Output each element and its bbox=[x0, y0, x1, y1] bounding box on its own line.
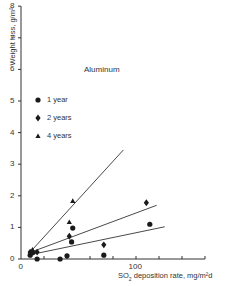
y-tick-label: 8 bbox=[10, 1, 14, 10]
triangle-marker bbox=[67, 219, 72, 224]
chart-canvas bbox=[0, 0, 230, 286]
legend-label: 2 years bbox=[47, 113, 72, 122]
x-tick-label: 0 bbox=[19, 262, 23, 271]
circle-marker bbox=[64, 253, 69, 258]
circle-marker bbox=[35, 256, 40, 261]
triangle-icon bbox=[34, 132, 42, 140]
x-label-post: deposition rate, mg/m²d bbox=[132, 271, 213, 280]
y-tick-label: 3 bbox=[10, 159, 14, 168]
legend-item: 1 year bbox=[34, 95, 68, 104]
y-tick-label: 6 bbox=[10, 64, 14, 73]
fit-line bbox=[28, 227, 165, 255]
diamond-marker bbox=[35, 115, 40, 122]
circle-icon bbox=[34, 96, 42, 104]
legend-item: 4 years bbox=[34, 131, 72, 140]
diamond-icon bbox=[34, 114, 42, 122]
chart-title: Aluminum bbox=[84, 65, 120, 74]
x-tick-label: 100 bbox=[129, 262, 142, 271]
legend-label: 4 years bbox=[47, 131, 72, 140]
y-tick-label: 5 bbox=[10, 96, 14, 105]
y-tick-label: 2 bbox=[10, 191, 14, 200]
x-label-pre: SO bbox=[118, 271, 129, 280]
legend-item: 2 years bbox=[34, 113, 72, 122]
y-tick-label: 1 bbox=[10, 222, 14, 231]
diamond-marker bbox=[35, 249, 40, 256]
legend-label: 1 year bbox=[47, 95, 68, 104]
x-axis-label: SO2 deposition rate, mg/m²d bbox=[118, 271, 213, 282]
triangle-marker bbox=[35, 133, 40, 138]
circle-marker bbox=[147, 222, 152, 227]
circle-marker bbox=[35, 97, 40, 102]
y-tick-label: 7 bbox=[10, 33, 14, 42]
triangle-marker bbox=[70, 198, 75, 203]
circle-marker bbox=[70, 225, 75, 230]
y-tick-label: 4 bbox=[10, 128, 14, 137]
fit-line bbox=[28, 205, 157, 253]
diamond-marker bbox=[101, 241, 106, 248]
circle-marker bbox=[101, 253, 106, 258]
circle-marker bbox=[58, 256, 63, 261]
diamond-marker bbox=[144, 199, 149, 206]
circle-marker bbox=[69, 239, 74, 244]
y-tick-label: 0 bbox=[10, 254, 14, 263]
